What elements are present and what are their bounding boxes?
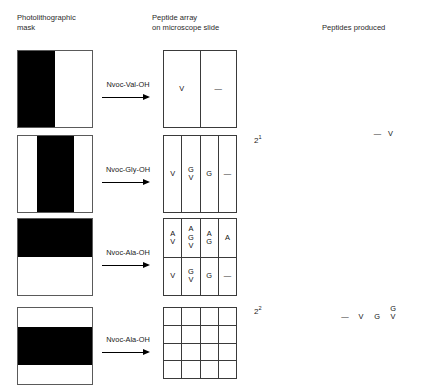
reagent-label: Nvoc-Val-OH <box>96 80 160 89</box>
array-cell <box>164 344 181 361</box>
array-cell <box>219 344 236 361</box>
synthesis-step-row: Nvoc-Ala-OH 24 — <box>0 307 429 385</box>
array-cell: V <box>164 51 200 127</box>
array-cell: G <box>201 136 218 212</box>
array-cell: A G <box>201 219 218 257</box>
array-cell: A V <box>164 219 181 257</box>
peptide-array-grid: V — <box>163 50 237 128</box>
mask-opaque-band <box>18 51 55 127</box>
photolithographic-mask <box>17 50 93 128</box>
right-arrow-icon <box>102 178 154 187</box>
array-cell: — <box>219 258 236 296</box>
reagent-step: Nvoc-Ala-OH <box>96 248 160 270</box>
peptide-array-grid <box>163 307 237 379</box>
heading-peptides-produced: Peptides produced <box>322 23 385 33</box>
right-arrow-icon <box>102 261 154 270</box>
array-cell <box>164 326 181 343</box>
photolithographic-mask <box>17 307 93 385</box>
array-cell <box>219 308 236 325</box>
reagent-step: Nvoc-Val-OH <box>96 80 160 102</box>
array-cell: V <box>164 136 181 212</box>
photolithographic-mask <box>17 135 93 213</box>
array-cell: G V <box>182 258 199 296</box>
array-cell <box>201 326 218 343</box>
photolithographic-mask <box>17 218 93 296</box>
array-cell: — <box>201 51 237 127</box>
reagent-label: Nvoc-Ala-OH <box>96 248 160 257</box>
array-cell <box>182 361 199 378</box>
array-cell <box>182 326 199 343</box>
mask-opaque-band <box>37 136 74 212</box>
array-cell <box>219 361 236 378</box>
right-arrow-icon <box>102 93 154 102</box>
reagent-label: Nvoc-Gly-OH <box>96 165 160 174</box>
peptide-array-grid: A V A G V A G A V G V G — <box>163 218 237 296</box>
synthesis-step-row: Nvoc-Val-OH V — 21 — V <box>0 50 429 130</box>
mask-opaque-band <box>18 327 92 365</box>
array-cell: G <box>201 258 218 296</box>
heading-peptide-array: Peptide array on microscope slide <box>152 13 219 32</box>
array-cell <box>182 308 199 325</box>
array-cell: G V <box>182 136 199 212</box>
heading-photolithographic-mask: Photolithographic mask <box>17 13 76 32</box>
vlsips-peptide-synthesis-figure: Photolithographic mask Peptide array on … <box>0 0 429 389</box>
reagent-step: Nvoc-Gly-OH <box>96 165 160 187</box>
right-arrow-icon <box>102 348 154 357</box>
array-cell <box>201 308 218 325</box>
reagent-label: Nvoc-Ala-OH <box>96 335 160 344</box>
array-cell: V <box>164 258 181 296</box>
array-cell <box>182 344 199 361</box>
array-cell: A <box>219 219 236 257</box>
array-cell <box>201 344 218 361</box>
array-cell <box>164 361 181 378</box>
array-cell: — <box>219 136 236 212</box>
synthesis-step-row: Nvoc-Gly-OH V G V G — 22 — V G G V <box>0 135 429 215</box>
mask-opaque-band <box>18 219 92 257</box>
array-cell <box>201 361 218 378</box>
array-cell <box>219 326 236 343</box>
array-cell <box>164 308 181 325</box>
peptide-array-grid: V G V G — <box>163 135 237 213</box>
synthesis-step-row: Nvoc-Ala-OH A V A G V A G A V G V G — 23… <box>0 218 429 300</box>
reagent-step: Nvoc-Ala-OH <box>96 335 160 357</box>
array-cell: A G V <box>182 219 199 257</box>
